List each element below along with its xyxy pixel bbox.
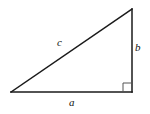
right-triangle-figure: c b a [0, 0, 150, 114]
triangle-svg [0, 0, 150, 114]
vertical-leg-label: b [135, 42, 141, 53]
horizontal-leg-label: a [69, 97, 75, 108]
hypotenuse-label: c [57, 37, 62, 48]
